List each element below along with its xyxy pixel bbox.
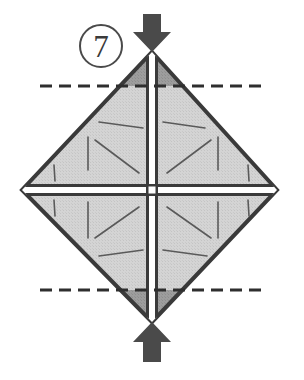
step-number-label: 7 (93, 29, 109, 64)
top-fold-arrow (133, 14, 171, 52)
cross-center-highlight (149, 187, 156, 194)
diagram-canvas: 7 (0, 0, 304, 380)
center-cross (22, 52, 277, 322)
origami-step-figure: 7 (0, 0, 304, 380)
circled-step-number: 7 (80, 25, 122, 67)
bottom-fold-arrow (133, 322, 171, 362)
